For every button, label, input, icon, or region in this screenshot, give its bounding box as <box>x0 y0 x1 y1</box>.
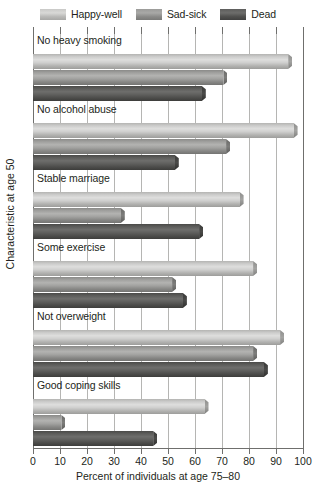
category-label: Stable marriage <box>37 172 110 184</box>
plot-area: No heavy smokingNo alcohol abuseStable m… <box>33 34 303 448</box>
bar-body <box>33 123 294 138</box>
bar-sad-sick <box>33 277 176 292</box>
bar-body <box>33 399 205 414</box>
x-tick-label: 50 <box>162 455 174 467</box>
chart-legend: Happy-well Sad-sick Dead <box>0 0 316 28</box>
bar-end-cap <box>264 362 268 377</box>
bar-body <box>33 139 226 154</box>
bar-end-cap <box>223 70 227 85</box>
legend-item-happy-well: Happy-well <box>40 8 122 20</box>
legend-item-sad-sick: Sad-sick <box>136 8 206 20</box>
x-tick-label: 80 <box>243 455 255 467</box>
bar-dead <box>33 293 187 308</box>
bar-group: Good coping skills <box>33 379 303 448</box>
legend-item-dead: Dead <box>220 8 276 20</box>
x-tick <box>249 448 250 454</box>
legend-label-dead: Dead <box>251 8 276 20</box>
category-label: Not overweight <box>37 310 106 322</box>
bar-happy-well <box>33 399 209 414</box>
top-tick <box>114 27 115 34</box>
top-tick <box>222 27 223 34</box>
bar-dead <box>33 86 206 101</box>
bar-end-cap <box>175 155 179 170</box>
x-tick <box>87 448 88 454</box>
x-tick <box>222 448 223 454</box>
bar-end-cap <box>153 431 157 446</box>
bar-end-cap <box>61 415 65 430</box>
bar-sad-sick <box>33 139 230 154</box>
bar-happy-well <box>33 261 257 276</box>
bar-group: Not overweight <box>33 310 303 379</box>
top-tick <box>141 27 142 34</box>
top-tick <box>168 27 169 34</box>
bar-body <box>33 346 253 361</box>
legend-label-happy-well: Happy-well <box>71 8 122 20</box>
gridline <box>303 34 304 448</box>
y-axis-label: Characteristic at age 50 <box>4 124 16 304</box>
bar-body <box>33 54 288 69</box>
legend-swatch-sad-sick-icon <box>136 9 162 20</box>
category-label: Some exercise <box>37 241 105 253</box>
x-tick-label: 70 <box>216 455 228 467</box>
bar-body <box>33 224 199 239</box>
bar-end-cap <box>199 224 203 239</box>
legend-label-sad-sick: Sad-sick <box>167 8 206 20</box>
top-tick <box>33 27 34 34</box>
bar-body <box>33 362 264 377</box>
x-tick <box>303 448 304 454</box>
bar-body <box>33 208 121 223</box>
bar-group: No heavy smoking <box>33 34 303 103</box>
bar-body <box>33 277 172 292</box>
bar-end-cap <box>240 192 244 207</box>
bar-group: Some exercise <box>33 241 303 310</box>
category-label: No heavy smoking <box>37 34 122 46</box>
top-tick <box>249 27 250 34</box>
bar-group: No alcohol abuse <box>33 103 303 172</box>
legend-swatch-dead-icon <box>220 9 246 20</box>
bar-body <box>33 261 253 276</box>
bar-end-cap <box>226 139 230 154</box>
x-tick <box>168 448 169 454</box>
category-label: Good coping skills <box>37 379 120 391</box>
x-tick-label: 60 <box>189 455 201 467</box>
bar-end-cap <box>205 399 209 414</box>
x-tick <box>276 448 277 454</box>
bar-end-cap <box>253 261 257 276</box>
legend-swatch-happy-well-icon <box>40 9 66 20</box>
x-tick <box>195 448 196 454</box>
x-tick-label: 0 <box>30 455 36 467</box>
bar-body <box>33 70 223 85</box>
bar-end-cap <box>172 277 176 292</box>
bar-end-cap <box>280 330 284 345</box>
x-axis-label: Percent of individuals at age 75–80 <box>0 470 316 482</box>
bar-group: Stable marriage <box>33 172 303 241</box>
x-tick-label: 10 <box>54 455 66 467</box>
x-tick-label: 40 <box>135 455 147 467</box>
bar-end-cap <box>202 86 206 101</box>
x-axis-ticks <box>33 448 303 454</box>
bar-sad-sick <box>33 70 227 85</box>
bar-happy-well <box>33 192 244 207</box>
x-tick-label: 20 <box>81 455 93 467</box>
bar-sad-sick <box>33 208 125 223</box>
x-tick <box>33 448 34 454</box>
top-tick <box>195 27 196 34</box>
x-tick <box>141 448 142 454</box>
bar-sad-sick <box>33 415 65 430</box>
x-tick-label: 30 <box>108 455 120 467</box>
bar-body <box>33 431 153 446</box>
bar-body <box>33 86 202 101</box>
top-tick <box>60 27 61 34</box>
bar-happy-well <box>33 123 298 138</box>
top-tick <box>276 27 277 34</box>
bar-sad-sick <box>33 346 257 361</box>
top-tick-marks <box>33 27 303 34</box>
x-axis-tick-labels: 0102030405060708090100 <box>33 455 303 469</box>
bar-end-cap <box>183 293 187 308</box>
bar-dead <box>33 362 268 377</box>
bar-body <box>33 155 175 170</box>
top-tick <box>87 27 88 34</box>
x-tick-label: 100 <box>294 455 312 467</box>
bar-dead <box>33 224 203 239</box>
bar-end-cap <box>294 123 298 138</box>
